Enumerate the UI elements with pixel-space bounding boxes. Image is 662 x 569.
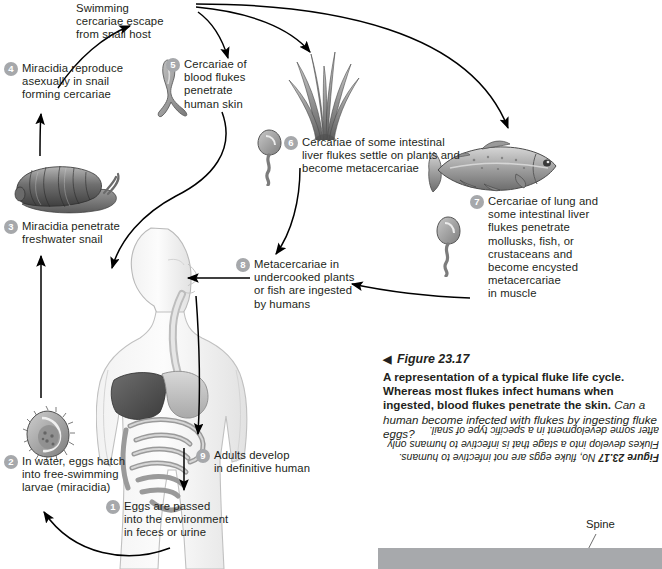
step-2-text: In water, eggs hatch into free-swimming … (22, 455, 125, 495)
arrow-3-to-4 (40, 114, 41, 156)
step-5-badge: 5 (166, 58, 180, 72)
step-4-text: Miracidia reproduce asexually in snail f… (22, 62, 123, 102)
step-2: 2 In water, eggs hatch into free-swimmin… (4, 455, 140, 495)
headline-text: Swimming cercariae escape from snail hos… (76, 2, 206, 42)
step-9: 9 Adults develop in definitive human (196, 449, 326, 475)
step-3-text: Miracidia penetrate freshwater snail (22, 220, 120, 246)
step-6-badge: 6 (284, 136, 298, 150)
step-3-badge: 3 (4, 220, 18, 234)
step-1-text: Eggs are passed into the environment in … (124, 500, 228, 540)
figure-page: Swimming cercariae escape from snail hos… (0, 0, 662, 569)
figure-number: Figure 23.17 (397, 352, 469, 366)
figure-number-heading: ◀Figure 23.17 (383, 352, 658, 366)
step-6: 6 Cercariae of some intestinal liver flu… (284, 136, 474, 176)
spine-label: Spine (586, 518, 615, 530)
step-8: 8 Metacercariae in undercooked plants or… (236, 258, 362, 311)
step-4: 4 Miracidia reproduce asexually in snail… (4, 62, 136, 102)
step-8-badge: 8 (236, 258, 250, 272)
step-8-text: Metacercariae in undercooked plants or f… (254, 258, 354, 311)
spine-bar (378, 548, 662, 569)
snail-illustration (8, 160, 126, 222)
arrow-7-to-8 (352, 284, 470, 298)
step-4-badge: 4 (4, 62, 18, 76)
step-9-badge: 9 (196, 449, 210, 463)
arrow-headline-to-6 (196, 7, 310, 52)
step-1-badge: 1 (106, 500, 120, 514)
answer-figure-label: Figure 23.17 (598, 452, 659, 463)
figure-answer-block: Figure 23.17 No, fluke eggs are not infe… (381, 424, 659, 464)
step-7-badge: 7 (470, 195, 484, 209)
step-3: 3 Miracidia penetrate freshwater snail (4, 220, 144, 246)
step-1: 1 Eggs are passed into the environment i… (106, 500, 246, 540)
step-7-text: Cercariae of lung and some intestinal li… (488, 195, 598, 301)
cercaria-muscle-illustration (432, 215, 468, 277)
step-2-badge: 2 (4, 455, 18, 469)
step-5: 5 Cercariae of blood flukes penetrate hu… (166, 58, 256, 111)
step-5-text: Cercariae of blood flukes penetrate huma… (184, 58, 247, 111)
caption-bold-text: A representation of a typical fluke life… (383, 370, 624, 411)
caption-pointer-icon: ◀ (383, 353, 391, 366)
step-9-text: Adults develop in definitive human (214, 449, 310, 475)
aquatic-plant-illustration (283, 48, 365, 140)
step-6-text: Cercariae of some intestinal liver fluke… (302, 136, 460, 176)
step-7: 7 Cercariae of lung and some intestinal … (470, 195, 600, 301)
